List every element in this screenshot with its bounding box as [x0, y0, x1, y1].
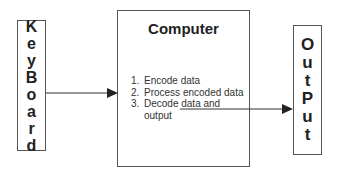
connector-arrows: [0, 0, 340, 173]
arrow-keyboard-to-computer: [46, 88, 118, 98]
arrow-computer-to-output: [180, 104, 293, 114]
